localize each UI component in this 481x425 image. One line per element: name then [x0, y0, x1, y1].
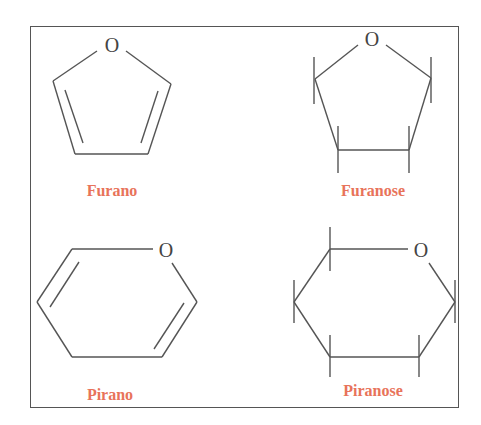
structures-drawing: O O O O: [0, 0, 481, 425]
piranose-oxygen: O: [414, 239, 428, 261]
furanose-oxygen: O: [365, 28, 379, 50]
label-furano: Furano: [52, 182, 172, 200]
piranose-structure: [294, 227, 455, 377]
label-furanose: Furanose: [313, 182, 433, 200]
pirano-oxygen: O: [159, 239, 173, 261]
furano-structure: [53, 51, 171, 154]
label-piranose: Piranose: [313, 382, 433, 400]
furanose-structure: [314, 45, 431, 173]
label-pirano: Pirano: [50, 386, 170, 404]
pirano-structure: [37, 249, 197, 357]
furano-oxygen: O: [105, 34, 119, 56]
